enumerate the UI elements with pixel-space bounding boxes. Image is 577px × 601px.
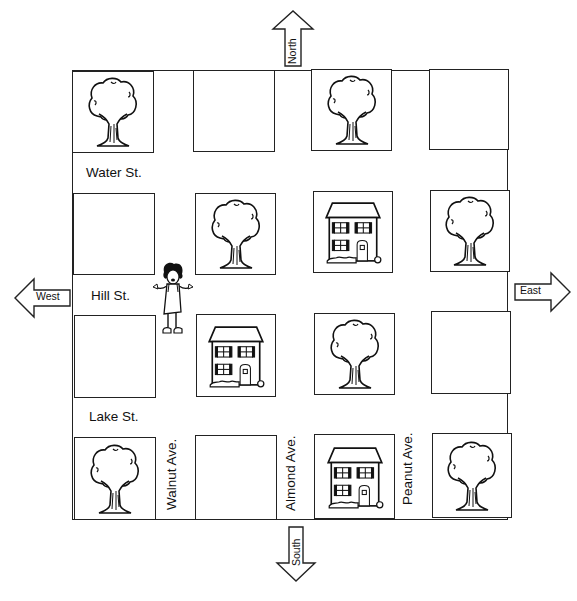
house-icon <box>322 199 384 265</box>
block-empty <box>195 435 277 520</box>
block-tree <box>74 437 156 520</box>
block-tree <box>314 313 395 395</box>
east-label: East <box>520 284 541 296</box>
block-tree <box>195 193 276 275</box>
block-empty <box>73 193 155 275</box>
block-house <box>313 191 393 273</box>
south-label: South <box>290 539 302 566</box>
avenue-label-almond: Almond Ave. <box>283 435 298 511</box>
tree-icon <box>322 74 382 146</box>
block-house <box>314 434 395 519</box>
block-empty <box>74 315 156 398</box>
block-tree <box>72 71 154 153</box>
tree-icon <box>325 318 385 390</box>
tree-icon <box>206 198 266 270</box>
block-house <box>196 314 276 397</box>
block-empty <box>431 311 511 394</box>
street-label-hill: Hill St. <box>91 288 130 303</box>
avenue-label-peanut: Peanut Ave. <box>400 432 415 505</box>
block-tree <box>432 433 512 518</box>
west-label: West <box>36 290 60 302</box>
street-label-water: Water St. <box>86 165 142 180</box>
house-icon <box>324 444 386 510</box>
street-label-lake: Lake St. <box>89 409 139 424</box>
avenue-label-walnut: Walnut Ave. <box>164 439 179 510</box>
house-icon <box>205 323 267 389</box>
tree-icon <box>85 443 145 515</box>
block-tree <box>311 69 392 151</box>
north-label: North <box>286 38 298 64</box>
block-tree <box>430 190 510 272</box>
tree-icon <box>442 440 502 512</box>
tree-icon <box>83 76 143 148</box>
block-empty <box>193 70 275 152</box>
girl-character-icon <box>150 262 196 342</box>
block-empty <box>429 69 509 150</box>
tree-icon <box>440 195 500 267</box>
